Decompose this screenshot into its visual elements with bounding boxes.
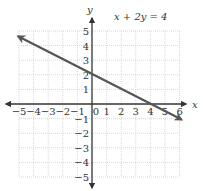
x-tick-label: −4 xyxy=(26,106,41,117)
y-tick-label: 4 xyxy=(83,41,89,52)
x-tick-label: 2 xyxy=(118,106,124,117)
coordinate-plane: −5−4−3−2−1012345654321−1−2−3−4−5 x + 2y … xyxy=(0,0,203,191)
y-tick-label: 5 xyxy=(83,26,89,37)
equation-label: x + 2y = 4 xyxy=(114,11,168,22)
x-tick-label: 6 xyxy=(176,106,182,117)
y-tick-label: −5 xyxy=(74,172,89,183)
x-tick-label: −2 xyxy=(55,106,70,117)
y-tick-label: −3 xyxy=(74,143,89,154)
y-axis-label: y xyxy=(86,4,93,15)
x-tick-label: −5 xyxy=(12,106,27,117)
y-tick-label: −1 xyxy=(74,114,89,125)
x-tick-label: 0 xyxy=(93,106,99,117)
x-tick-label: 3 xyxy=(133,106,139,117)
x-tick-label: 1 xyxy=(103,106,109,117)
x-axis-label: x xyxy=(192,99,198,110)
x-tick-label: −3 xyxy=(41,106,56,117)
y-tick-label: 3 xyxy=(83,55,89,66)
y-tick-label: −2 xyxy=(74,128,89,139)
y-tick-label: 1 xyxy=(83,84,89,95)
x-tick-label: 4 xyxy=(147,106,153,117)
y-tick-label: −4 xyxy=(74,157,89,168)
